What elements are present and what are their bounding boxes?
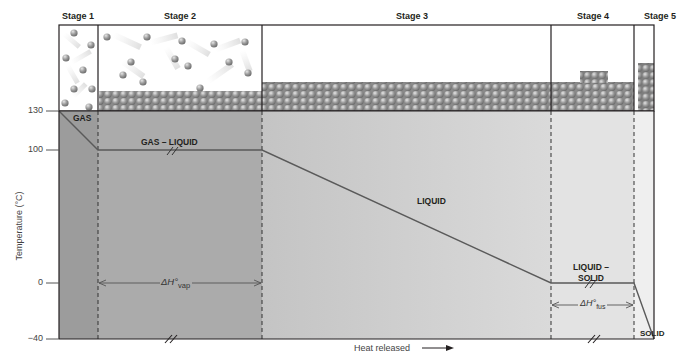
- phase-label-gas-liquid: GAS – LIQUID: [141, 137, 198, 148]
- stage-4-solid-cluster: [580, 71, 608, 83]
- y-tick-minus-40: −40: [3, 333, 43, 343]
- stage-3-liquid-layer: [262, 82, 551, 111]
- heat-released-arrow: [422, 345, 454, 351]
- region-gas: [59, 111, 98, 339]
- region-liquid: [262, 111, 551, 339]
- stage-5-solid-lattice: [638, 63, 654, 111]
- phase-label-liquid: LIQUID: [417, 196, 446, 207]
- delta-h-fus-label: ΔH°fus: [580, 298, 605, 310]
- stage-4-liquid-layer: [551, 82, 634, 111]
- y-axis-title: Temperature (°C): [14, 191, 24, 260]
- phase-label-liquid-solid-line2: SOLID: [561, 273, 621, 284]
- delta-h-vap-subscript: vap: [178, 281, 190, 290]
- phase-label-solid: SOLID: [640, 328, 664, 339]
- y-tick-0: 0: [3, 277, 43, 287]
- plot-area: [46, 111, 654, 351]
- phase-label-liquid-solid: LIQUID – SOLID: [561, 262, 621, 284]
- y-axis-ticks: [46, 111, 59, 339]
- y-tick-100: 100: [3, 144, 43, 154]
- delta-h-vap-symbol: ΔH°: [161, 276, 178, 287]
- delta-h-fus-symbol: ΔH°: [580, 298, 596, 308]
- stage-2-liquid-layer: [99, 91, 262, 111]
- region-solid: [634, 111, 654, 339]
- x-axis-title: Heat released: [354, 343, 410, 353]
- y-tick-130: 130: [3, 105, 43, 115]
- delta-h-fus-subscript: fus: [596, 303, 605, 310]
- delta-h-vap-label: ΔH°vap: [161, 276, 190, 290]
- particle-panel: [59, 25, 654, 111]
- phase-label-liquid-solid-line1: LIQUID –: [561, 262, 621, 273]
- phase-label-gas: GAS: [73, 113, 91, 124]
